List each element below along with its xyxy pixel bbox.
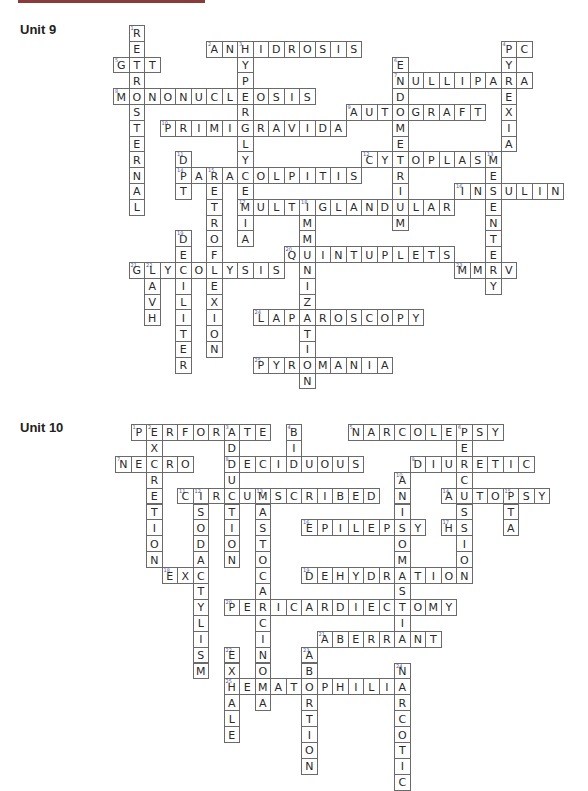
crossword-cell: R — [456, 456, 473, 473]
crossword-cell: O — [394, 535, 411, 552]
cell-letter: C — [256, 570, 271, 581]
cell-letter: I — [147, 522, 162, 533]
cell-letter: I — [395, 761, 410, 772]
cell-letter: T — [147, 506, 162, 517]
crossword-cell: D — [363, 567, 380, 584]
crossword-cell: U — [332, 456, 349, 473]
crossword-cell: 23A — [301, 647, 318, 664]
crossword-cell: I — [317, 488, 334, 505]
crossword-cell: O — [146, 535, 163, 552]
crossword-cell: X — [177, 567, 194, 584]
crossword-cell: T — [425, 631, 442, 648]
cell-letter: I — [504, 459, 519, 470]
crossword-cell: C — [394, 424, 411, 441]
cell-letter: R — [256, 602, 271, 613]
crossword-cell: I — [255, 631, 272, 648]
cell-letter: U — [225, 475, 240, 486]
cell-letter: E — [318, 570, 333, 581]
cell-letter: R — [302, 697, 317, 708]
cell-letter: E — [349, 491, 364, 502]
cell-letter: T — [395, 602, 410, 613]
cell-letter: C — [395, 713, 410, 724]
cell-letter: E — [225, 729, 240, 740]
crossword-cell: 15P — [503, 488, 520, 505]
cell-letter: U — [240, 491, 255, 502]
cell-letter: I — [395, 618, 410, 629]
crossword-cell: B — [332, 488, 349, 505]
crossword-cell: U — [224, 472, 241, 489]
cell-letter: N — [395, 665, 410, 676]
crossword-cell: S — [348, 456, 365, 473]
cell-letter: R — [457, 459, 472, 470]
cell-letter: H — [333, 570, 348, 581]
cell-letter: A — [225, 427, 240, 438]
crossword-cell: C — [193, 567, 210, 584]
cell-letter: C — [256, 459, 271, 470]
cell-letter: R — [163, 427, 178, 438]
cell-letter: A — [302, 602, 317, 613]
cell-letter: S — [457, 522, 472, 533]
cell-letter: M — [426, 602, 441, 613]
cell-letter: C — [147, 459, 162, 470]
cell-letter: N — [411, 634, 426, 645]
crossword-cell: 8D — [224, 456, 241, 473]
cell-letter: O — [178, 459, 193, 470]
cell-letter: O — [256, 665, 271, 676]
crossword-cell: 11C — [177, 488, 194, 505]
cell-letter: O — [395, 729, 410, 740]
cell-letter: U — [302, 459, 317, 470]
cell-letter: P — [132, 427, 147, 438]
crossword-cell: D — [332, 599, 349, 616]
cell-letter: X — [147, 443, 162, 454]
cell-letter: T — [473, 491, 488, 502]
cell-letter: A — [194, 554, 209, 565]
crossword-cell: C — [379, 599, 396, 616]
cell-letter: R — [364, 634, 379, 645]
cell-letter: S — [194, 650, 209, 661]
crossword-cell: O — [255, 551, 272, 568]
crossword-cell: R — [162, 456, 179, 473]
crossword-cell: R — [301, 488, 318, 505]
crossword-cell: R — [379, 631, 396, 648]
crossword-cell: I — [394, 504, 411, 521]
crossword-cell: S — [472, 424, 489, 441]
crossword-cell: H — [332, 678, 349, 695]
cell-letter: A — [225, 697, 240, 708]
cell-letter: O — [302, 681, 317, 692]
cell-letter: I — [271, 602, 286, 613]
crossword-cell: A — [255, 583, 272, 600]
crossword-cell: I — [394, 758, 411, 775]
cell-letter: E — [457, 443, 472, 454]
cell-letter: C — [395, 427, 410, 438]
cell-letter: O — [302, 745, 317, 756]
crossword-cell: L — [363, 678, 380, 695]
crossword-cell: L — [348, 519, 365, 536]
crossword-cell: I — [332, 519, 349, 536]
cell-letter: D — [287, 459, 302, 470]
cell-letter: I — [271, 459, 286, 470]
cell-letter: E — [147, 427, 162, 438]
cell-letter: A — [364, 427, 379, 438]
crossword-cell: R — [317, 599, 334, 616]
cell-letter: S — [194, 506, 209, 517]
cell-letter: T — [287, 681, 302, 692]
cell-letter: E — [132, 459, 147, 470]
crossword-cell: C — [224, 488, 241, 505]
cell-letter: R — [380, 570, 395, 581]
cell-letter: D — [302, 570, 317, 581]
crossword-cell: S — [255, 519, 272, 536]
cell-letter: A — [256, 586, 271, 597]
crossword-cell: A — [394, 631, 411, 648]
cell-letter: R — [395, 697, 410, 708]
cell-letter: E — [302, 522, 317, 533]
crossword-cell: S — [394, 583, 411, 600]
cell-letter: O — [488, 491, 503, 502]
crossword-cell: C — [255, 456, 272, 473]
crossword-cell: O — [301, 678, 318, 695]
crossword-cell: M — [193, 663, 210, 680]
cell-letter: I — [194, 634, 209, 645]
cell-letter: T — [240, 427, 255, 438]
cell-letter: E — [225, 650, 240, 661]
cell-letter: S — [457, 506, 472, 517]
cell-letter: I — [287, 443, 302, 454]
